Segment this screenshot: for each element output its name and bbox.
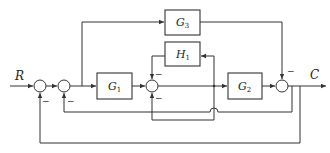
s2-bottom-sign: − xyxy=(67,96,75,106)
s1-bottom-sign: − xyxy=(42,96,50,106)
s4-top-sign: − xyxy=(287,66,295,76)
summing-junction-3 xyxy=(146,80,158,92)
summing-junction-2 xyxy=(58,80,70,92)
input-label: R xyxy=(14,69,24,83)
s3-bottom-sign: − xyxy=(155,93,163,103)
s3-top-sign: − xyxy=(155,69,163,79)
summing-junction-1 xyxy=(34,80,46,92)
output-label: C xyxy=(310,68,319,82)
summing-junction-4 xyxy=(276,80,288,92)
block-diagram: G1 G2 G3 H1 R C − − − − − xyxy=(0,0,330,153)
